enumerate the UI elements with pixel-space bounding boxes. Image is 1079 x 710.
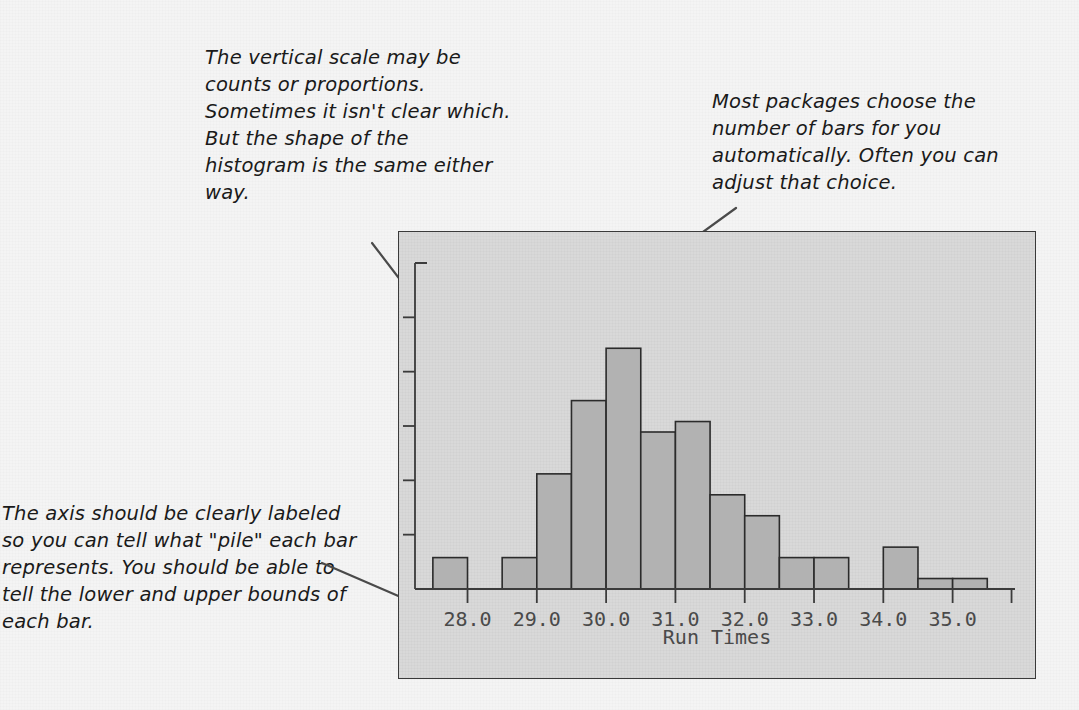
annotation-bar-count: Most packages choose the number of bars … xyxy=(712,88,1042,196)
histogram-bar xyxy=(745,516,780,589)
histogram-bar xyxy=(537,474,572,589)
x-axis-tick-label: 33.0 xyxy=(790,607,838,631)
histogram-bar xyxy=(953,579,988,589)
histogram-bar xyxy=(641,432,676,589)
histogram-bar xyxy=(675,422,710,589)
x-axis-tick-label: 30.0 xyxy=(582,607,630,631)
histogram-bar xyxy=(606,348,641,589)
histogram-plot: 28.029.030.031.032.033.034.035.0 Run Tim… xyxy=(399,232,1037,680)
x-axis-tick-label: 34.0 xyxy=(859,607,907,631)
x-axis-tick-label: 29.0 xyxy=(513,607,561,631)
histogram-bar xyxy=(571,401,606,589)
histogram-bar xyxy=(433,558,468,589)
x-axis-tick-label: 35.0 xyxy=(929,607,977,631)
histogram-bar xyxy=(502,558,537,589)
histogram-bar xyxy=(779,558,814,589)
x-axis-title: Run Times xyxy=(663,625,771,649)
x-axis-tick-label: 28.0 xyxy=(443,607,491,631)
histogram-bar xyxy=(710,495,745,589)
annotation-vertical-scale: The vertical scale may be counts or prop… xyxy=(205,44,515,206)
histogram-bar xyxy=(883,547,918,589)
histogram-bars xyxy=(433,348,987,589)
y-axis-ticks xyxy=(403,317,415,534)
histogram-bar xyxy=(814,558,849,589)
annotation-axis-labeling: The axis should be clearly labeled so yo… xyxy=(2,500,362,635)
y-axis-line xyxy=(415,263,427,589)
histogram-panel: 28.029.030.031.032.033.034.035.0 Run Tim… xyxy=(398,231,1036,679)
x-axis-ticks xyxy=(468,589,1012,603)
histogram-bar xyxy=(918,579,953,589)
